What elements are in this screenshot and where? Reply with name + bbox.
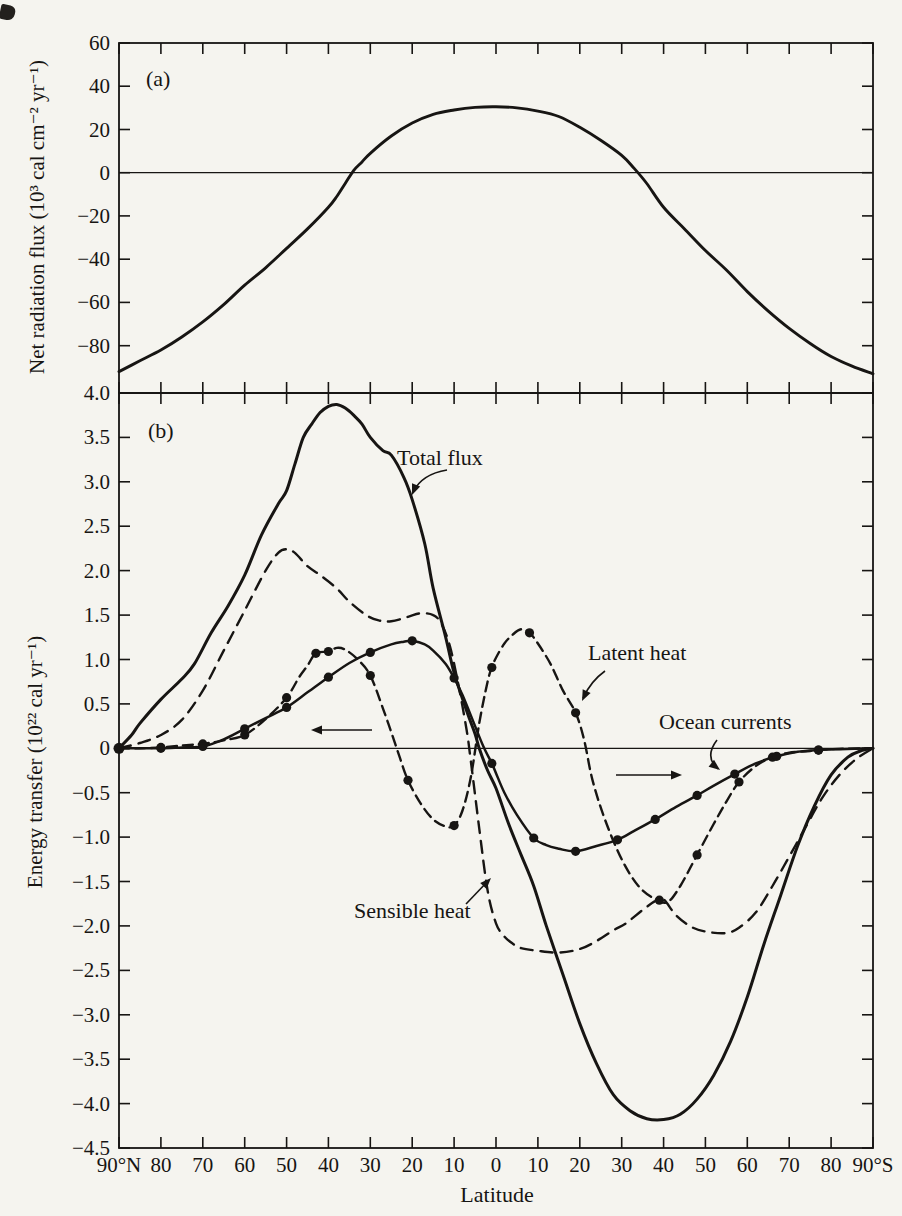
northward-transport-arrow-head (311, 726, 322, 735)
total-flux-label: Total flux (397, 446, 483, 470)
x-tick-label: 50 (695, 1153, 716, 1177)
ocean-currents-point (156, 744, 165, 753)
y-tick-label: 4.0 (84, 381, 110, 405)
x-tick-label: 90°N (97, 1153, 142, 1177)
ocean-currents-curve (119, 641, 873, 852)
x-tick-label: 60 (234, 1153, 255, 1177)
latent-heat-point (525, 628, 534, 637)
x-tick-label: 50 (276, 1153, 297, 1177)
ocean-currents-point (450, 674, 459, 683)
y-tick-label: 3.5 (84, 425, 110, 449)
net-radiation-flux-curve (119, 107, 873, 374)
latent-heat-label: Latent heat (588, 641, 686, 665)
latent-heat-curve (119, 629, 873, 903)
x-tick-label: 80 (150, 1153, 171, 1177)
figure-page: 6040200−20−40−60−804.03.53.02.52.01.51.0… (0, 0, 902, 1216)
ocean-currents-point (487, 759, 496, 768)
southward-transport-arrow-head (671, 771, 682, 780)
latent-heat-point (450, 821, 459, 830)
y-tick-label: −40 (77, 247, 110, 271)
y-tick-label: 2.5 (84, 514, 110, 538)
total-flux-pointer (413, 470, 447, 492)
latent-heat-point (282, 693, 291, 702)
y-tick-label: 1.0 (84, 648, 110, 672)
x-tick-label: 10 (527, 1153, 548, 1177)
y-tick-label: −0.5 (72, 781, 110, 805)
x-tick-label: 20 (402, 1153, 423, 1177)
latent-heat-point (655, 896, 664, 905)
ocean-currents-point (651, 815, 660, 824)
y-tick-label: −3.5 (72, 1047, 110, 1071)
total-flux-pointer-head (412, 483, 420, 495)
ocean-currents-point (693, 791, 702, 800)
ocean-currents-point (366, 648, 375, 657)
ocean-currents-point (730, 770, 739, 779)
y-tick-label: −20 (77, 204, 110, 228)
y-tick-label: 60 (89, 31, 110, 55)
latent-heat-point (366, 671, 375, 680)
sensible-heat-curve (119, 549, 873, 952)
x-tick-label: 0 (491, 1153, 502, 1177)
y-tick-label: −1.0 (72, 825, 110, 849)
panel-a-frame (119, 43, 873, 393)
latent-heat-pointer-head (582, 689, 591, 701)
ocean-currents-point (240, 724, 249, 733)
y-tick-label: −60 (77, 290, 110, 314)
ocean-currents-point (814, 746, 823, 755)
x-tick-label: 20 (569, 1153, 590, 1177)
x-tick-label: 10 (444, 1153, 465, 1177)
panel-a-tag: (a) (146, 66, 170, 92)
latent-heat-point (324, 647, 333, 656)
y-tick-label: 0.5 (84, 692, 110, 716)
panel-a: 6040200−20−40−60−80 (77, 31, 873, 393)
panel-a-x-ticks (119, 43, 873, 393)
x-tick-label: 70 (779, 1153, 800, 1177)
y-tick-label: 2.0 (84, 559, 110, 583)
x-tick-label: 30 (360, 1153, 381, 1177)
x-tick-label: 40 (653, 1153, 674, 1177)
ocean-currents-point (282, 703, 291, 712)
y-tick-label: 0 (100, 736, 111, 760)
latent-heat-point (487, 663, 496, 672)
y-tick-label: 40 (89, 74, 110, 98)
x-tick-label: 90°S (852, 1153, 893, 1177)
x-axis-title: Latitude (460, 1182, 533, 1208)
ocean-currents-point (772, 752, 781, 761)
panel-b-y-axis-title: Energy transfer (10²² cal yr⁻¹) (23, 636, 48, 888)
two-panel-latitude-chart: 6040200−20−40−60−804.03.53.02.52.01.51.0… (0, 0, 902, 1216)
latent-heat-point (693, 850, 702, 859)
x-tick-label: 60 (737, 1153, 758, 1177)
panel-a-y-ticks: 6040200−20−40−60−80 (77, 31, 873, 358)
ocean-currents-point (571, 847, 580, 856)
y-tick-label: −2.0 (72, 914, 110, 938)
x-tick-label: 40 (318, 1153, 339, 1177)
ocean-currents-pointer-head (709, 760, 720, 770)
ocean-currents-point (198, 742, 207, 751)
x-tick-label: 30 (611, 1153, 632, 1177)
y-tick-label: −1.5 (72, 870, 110, 894)
y-tick-label: −2.5 (72, 958, 110, 982)
latent-heat-point (571, 708, 580, 717)
ocean-currents-point (408, 636, 417, 645)
panel-b-tag: (b) (148, 418, 174, 444)
y-tick-label: 1.5 (84, 603, 110, 627)
y-tick-label: −4.0 (72, 1092, 110, 1116)
y-tick-label: 0 (100, 161, 111, 185)
x-tick-labels: 90°N80706050403020100102030405060708090°… (97, 1153, 894, 1177)
panel-a-y-axis-title: Net radiation flux (10³ cal cm⁻² yr⁻¹) (25, 60, 50, 374)
y-tick-label: 3.0 (84, 470, 110, 494)
x-tick-label: 70 (192, 1153, 213, 1177)
y-tick-label: −3.0 (72, 1003, 110, 1027)
ocean-currents-point (324, 673, 333, 682)
panel-b: 4.03.53.02.52.01.51.00.50−0.5−1.0−1.5−2.… (72, 381, 873, 1160)
sensible-heat-label: Sensible heat (354, 899, 471, 923)
ocean-currents-point (529, 833, 538, 842)
latent-heat-point (403, 776, 412, 785)
latent-heat-point (734, 777, 743, 786)
ocean-currents-label: Ocean currents (659, 710, 792, 734)
y-tick-label: −80 (77, 334, 110, 358)
latent-heat-point (311, 649, 320, 658)
ocean-currents-point (613, 835, 622, 844)
y-tick-label: 20 (89, 118, 110, 142)
x-tick-label: 80 (821, 1153, 842, 1177)
